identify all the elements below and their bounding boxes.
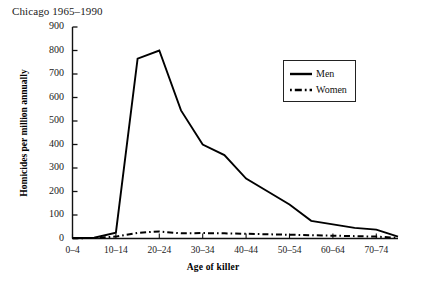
x-tick-label: 40–44 <box>234 245 258 255</box>
y-axis-ticks <box>73 27 78 239</box>
x-tick-label: 20–24 <box>147 245 171 255</box>
x-tick-label: 60–64 <box>321 245 345 255</box>
x-tick-label: 10–14 <box>104 245 128 255</box>
chart-figure: Chicago 1965–1990 Homicides per million … <box>0 0 426 285</box>
x-axis-label: Age of killer <box>0 262 426 272</box>
x-tick-label: 0–4 <box>65 245 79 255</box>
legend-item-women: Women <box>290 83 347 97</box>
y-tick-label: 600 <box>30 91 64 102</box>
y-tick-label: 200 <box>30 185 64 196</box>
legend-label-women: Women <box>316 85 347 95</box>
legend-swatch-men-icon <box>290 69 312 79</box>
legend-item-men: Men <box>290 67 334 81</box>
y-tick-label: 800 <box>30 44 64 55</box>
legend: Men Women <box>283 60 356 102</box>
x-tick-label: 50–54 <box>278 245 302 255</box>
y-tick-label: 500 <box>30 114 64 125</box>
y-tick-label: 900 <box>30 20 64 31</box>
y-tick-label: 700 <box>30 67 64 78</box>
y-tick-label: 300 <box>30 161 64 172</box>
axis-lines <box>73 27 399 239</box>
y-tick-label: 400 <box>30 138 64 149</box>
series-line-women <box>73 231 399 238</box>
legend-label-men: Men <box>316 69 334 79</box>
legend-swatch-women-icon <box>290 85 312 95</box>
x-tick-label: 30–34 <box>191 245 215 255</box>
x-tick-label: 70–74 <box>364 245 388 255</box>
y-tick-label: 0 <box>30 232 64 243</box>
y-tick-label: 100 <box>30 208 64 219</box>
